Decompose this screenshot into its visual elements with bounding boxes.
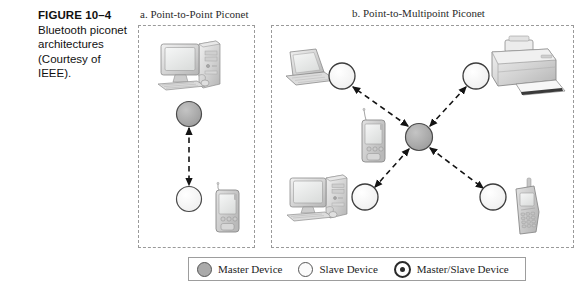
legend-item-master-slave: Master/Slave Device (394, 261, 509, 278)
legend-item-master: Master Device (197, 262, 282, 277)
open-white-circle-icon (298, 262, 313, 277)
figure-number: FIGURE 10–4 (38, 8, 134, 23)
panel-point-to-point (138, 25, 255, 248)
legend-label-master-slave: Master/Slave Device (417, 263, 509, 275)
legend-label-slave: Slave Device (319, 263, 377, 275)
figure-caption-text: Bluetooth piconet architectures (Courtes… (38, 23, 134, 81)
figure-caption: FIGURE 10–4 Bluetooth piconet architectu… (38, 8, 134, 81)
panel-b-title: b. Point-to-Multipoint Piconet (352, 7, 485, 19)
filled-gray-circle-icon (197, 262, 212, 277)
ringed-circle-icon (394, 261, 411, 278)
panel-a-title: a. Point-to-Point Piconet (140, 8, 248, 20)
panel-point-to-multipoint (271, 25, 574, 248)
legend: Master Device Slave Device Master/Slave … (188, 257, 526, 281)
legend-item-slave: Slave Device (298, 262, 377, 277)
legend-label-master: Master Device (218, 263, 282, 275)
